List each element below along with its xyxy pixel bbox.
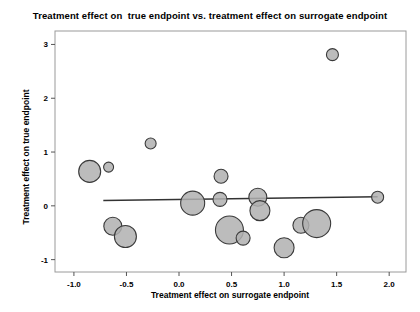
y-tick-label: 2 xyxy=(44,94,49,103)
x-tick-label: 0.0 xyxy=(173,280,185,289)
data-point-bubble xyxy=(213,192,227,206)
scatter-plot-figure: Treatment effect on true endpoint vs. tr… xyxy=(0,0,420,312)
x-tick-label: 0.5 xyxy=(226,280,238,289)
data-point-bubble xyxy=(214,169,228,183)
x-tick-label: 1.5 xyxy=(331,280,343,289)
y-axis-ticks: -10123 xyxy=(41,40,55,264)
plot-canvas: -10123 -1.0-0.50.00.51.01.52.0 xyxy=(0,0,420,312)
data-point-bubble xyxy=(303,210,331,238)
data-point-bubble xyxy=(104,162,114,172)
x-axis-ticks: -1.0-0.50.00.51.01.52.0 xyxy=(67,272,395,289)
x-tick-label: -1.0 xyxy=(67,280,81,289)
y-tick-label: 3 xyxy=(44,40,49,49)
data-point-bubble xyxy=(79,160,101,182)
data-point-bubble xyxy=(250,201,270,221)
data-point-bubble xyxy=(274,238,294,258)
x-tick-label: 2.0 xyxy=(384,280,396,289)
y-tick-label: 1 xyxy=(44,148,49,157)
data-point-bubble xyxy=(145,138,156,149)
data-point-bubble xyxy=(372,191,384,203)
y-tick-label: 0 xyxy=(44,202,49,211)
data-point-bubble xyxy=(326,49,338,61)
x-tick-label: -0.5 xyxy=(120,280,134,289)
data-point-bubble xyxy=(114,225,136,247)
y-tick-label: -1 xyxy=(41,256,49,265)
x-tick-label: 1.0 xyxy=(279,280,291,289)
data-point-bubble xyxy=(181,191,205,215)
data-point-bubble xyxy=(236,231,250,245)
